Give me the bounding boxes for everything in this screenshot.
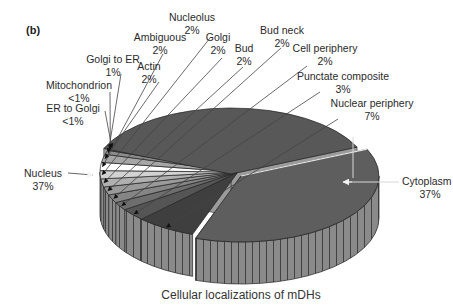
label-name: Actin — [137, 60, 161, 72]
label-value: 3% — [335, 83, 350, 95]
label-ambiguous: Ambiguous2% — [134, 31, 187, 56]
label-mitochondrion: Mitochondrion<1% — [46, 79, 112, 104]
label-name: Nucleus — [24, 167, 62, 179]
label-value: 2% — [317, 55, 332, 67]
label-punctate-composite: Punctate composite3% — [297, 70, 389, 95]
label-golgi: Golgi2% — [206, 31, 231, 56]
label-name: Ambiguous — [134, 31, 187, 43]
label-nuclear-periphery: Nuclear periphery7% — [331, 97, 415, 122]
label-value: 2% — [236, 55, 251, 67]
callout-nucleus — [68, 173, 93, 175]
label-value: 2% — [210, 44, 225, 56]
label-name: ER to Golgi — [46, 102, 100, 114]
label-name: Golgi — [206, 31, 231, 43]
label-value: 37% — [419, 188, 440, 200]
label-value: <1% — [62, 115, 83, 127]
label-actin: Actin2% — [137, 60, 161, 85]
label-cell-periphery: Cell periphery2% — [293, 42, 359, 67]
pie-3d — [100, 108, 379, 284]
label-cytoplasm: Cytoplasm37% — [402, 175, 452, 200]
label-value: 7% — [364, 110, 379, 122]
label-er-to-golgi: ER to Golgi<1% — [46, 102, 100, 127]
label-name: Nuclear periphery — [331, 97, 415, 109]
pie-side-cell-periphery — [116, 203, 125, 252]
label-value: 2% — [152, 44, 167, 56]
label-name: Cytoplasm — [402, 175, 452, 187]
label-value: 2% — [184, 24, 199, 36]
label-name: Mitochondrion — [46, 79, 112, 91]
label-name: Bud neck — [260, 24, 305, 36]
label-value: 37% — [32, 180, 53, 192]
label-golgi-to-er: Golgi to ER1% — [86, 53, 140, 78]
panel-label: (b) — [26, 24, 40, 36]
label-value: 2% — [141, 73, 156, 85]
label-name: Punctate composite — [297, 70, 389, 82]
label-value: 1% — [105, 66, 120, 78]
pie-chart: Cytoplasm37%Nuclear periphery7%Punctate … — [0, 0, 453, 306]
label-bud: Bud2% — [235, 42, 254, 67]
label-name: Cell periphery — [293, 42, 359, 54]
label-name: Bud — [235, 42, 254, 54]
label-nucleus: Nucleus37% — [24, 167, 62, 192]
pie-side-bud-neck — [109, 195, 116, 245]
label-name: Nucleolus — [169, 11, 215, 23]
label-value: 2% — [274, 37, 289, 49]
callout-er-to-golgi — [105, 111, 112, 148]
chart-title: Cellular localizations of mDHs — [161, 288, 320, 302]
label-name: Golgi to ER — [86, 53, 140, 65]
